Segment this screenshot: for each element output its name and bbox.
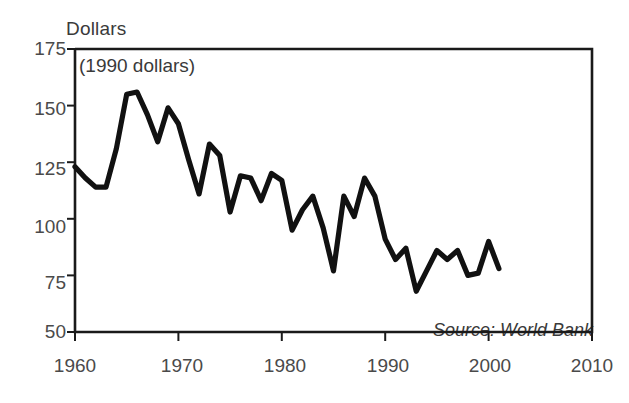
x-tick-marks: [75, 332, 592, 341]
data-series-line: [75, 92, 499, 291]
axis-frame: [75, 49, 592, 332]
chart-figure: Dollars (1990 dollars) Source: World Ban…: [0, 0, 629, 403]
plot-area: [0, 0, 629, 403]
